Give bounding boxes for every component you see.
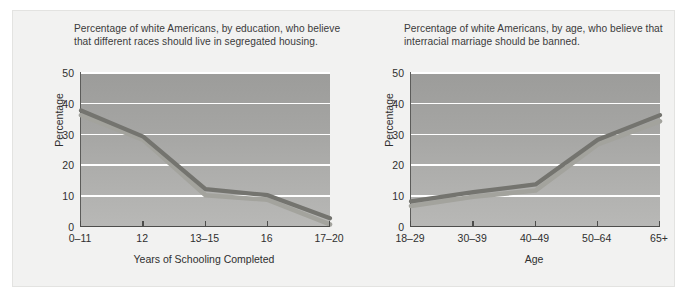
y-tick-label-10-left: 10: [48, 190, 74, 202]
chart-age-interracial-marriage: Percentage of white Americans, by age, w…: [360, 10, 685, 285]
x-tick-label-4-left: 17–20: [300, 232, 358, 244]
x-axis-title-right: Age: [386, 253, 682, 265]
x-tick-label-3-left: 16: [238, 232, 296, 244]
x-tick-label-1-left: 12: [113, 232, 171, 244]
x-tick-mark-3-left: [267, 221, 268, 227]
chart-caption-left: Percentage of white Americans, by educat…: [74, 22, 346, 48]
x-tick-label-0-right: 18–29: [381, 232, 439, 244]
x-tick-label-2-left: 13–15: [176, 232, 234, 244]
figure-page: Percentage of white Americans, by educat…: [0, 0, 685, 299]
x-tick-label-4-right: 65+: [630, 232, 685, 244]
x-tick-mark-3-right: [597, 221, 598, 227]
x-tick-label-2-right: 40–49: [506, 232, 564, 244]
series-lines-left: [81, 72, 330, 226]
series-line-lower-right: [411, 121, 660, 206]
x-tick-label-3-right: 50–64: [568, 232, 626, 244]
plot-area-left: [80, 72, 330, 226]
plot-area-right: [410, 72, 660, 226]
x-axis-title-left: Years of Schooling Completed: [56, 253, 352, 265]
series-line-lower-left: [81, 115, 330, 224]
x-tick-mark-2-right: [535, 221, 536, 227]
x-tick-mark-4-left: [329, 221, 330, 227]
figure-container: Percentage of white Americans, by educat…: [12, 10, 673, 285]
x-tick-mark-4-right: [659, 221, 660, 227]
series-line-upper-left: [81, 111, 330, 219]
y-axis-title-right: Percentage: [383, 65, 395, 175]
x-tick-mark-1-right: [472, 221, 473, 227]
chart-caption-right: Percentage of white Americans, by age, w…: [404, 22, 676, 48]
y-axis-title-left: Percentage: [53, 65, 65, 175]
chart-education-segregated-housing: Percentage of white Americans, by educat…: [30, 10, 360, 285]
x-tick-mark-0-left: [80, 221, 81, 227]
x-tick-label-0-left: 0–11: [51, 232, 109, 244]
x-tick-mark-2-left: [205, 221, 206, 227]
series-lines-right: [411, 72, 660, 226]
x-tick-mark-0-right: [410, 221, 411, 227]
x-tick-mark-1-left: [142, 221, 143, 227]
y-tick-label-10-right: 10: [378, 190, 404, 202]
x-tick-label-1-right: 30–39: [443, 232, 501, 244]
